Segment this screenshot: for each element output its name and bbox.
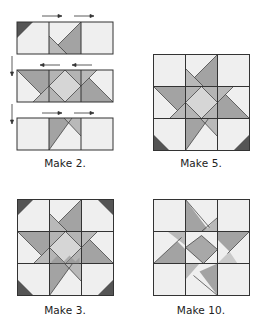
bottom-row [17, 118, 113, 150]
row-assembly-svg [0, 0, 130, 160]
top-row [17, 22, 113, 54]
row-assembly-diagram [0, 0, 130, 160]
star-block-svg [153, 199, 250, 296]
star-block-make-5 [153, 54, 250, 151]
panel-label-make-5: Make 5. [151, 157, 251, 169]
arrow-down-icon [11, 56, 14, 76]
panel-label-make-2: Make 2. [15, 157, 115, 169]
arrow-right-icon [42, 112, 94, 115]
panel-label-make-10: Make 10. [151, 304, 251, 316]
arrow-left-icon [40, 64, 92, 67]
star-block-make-10 [153, 199, 250, 296]
star-block-svg [153, 54, 250, 151]
middle-row [17, 70, 113, 102]
arrow-down-icon [11, 104, 14, 124]
panel-label-make-3: Make 3. [15, 304, 115, 316]
star-block-make-3 [17, 199, 114, 296]
star-block-svg [17, 199, 114, 296]
arrow-right-icon [42, 15, 94, 18]
